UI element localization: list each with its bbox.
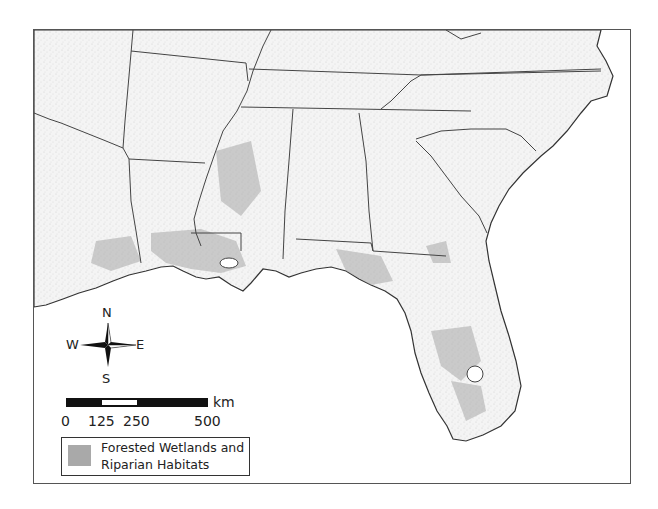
compass-south-label: S: [102, 372, 110, 385]
legend-label-wetlands: Forested Wetlands and Riparian Habitats: [101, 440, 249, 473]
scale-tick-250: 250: [123, 413, 150, 429]
lake-okeechobee: [467, 366, 483, 382]
legend-swatch-wetlands: [68, 445, 91, 466]
scale-tick-500: 500: [194, 413, 221, 429]
scale-tick-125: 125: [88, 413, 115, 429]
compass-north-label: N: [102, 306, 112, 319]
legend: Forested Wetlands and Riparian Habitats: [61, 437, 250, 476]
compass-west-label: W: [66, 338, 79, 351]
compass-star-icon: [80, 323, 136, 367]
lake-pontchartrain: [220, 258, 238, 268]
scale-unit: km: [213, 394, 235, 410]
scale-tick-0: 0: [61, 413, 70, 429]
land-mass: [34, 30, 613, 441]
compass-east-label: E: [136, 338, 144, 351]
